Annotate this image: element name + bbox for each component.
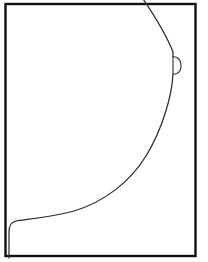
nipple-path [173,57,181,75]
breast-outline-path [9,0,173,258]
figure-canvas [0,0,208,262]
line-drawing-svg [0,0,208,262]
